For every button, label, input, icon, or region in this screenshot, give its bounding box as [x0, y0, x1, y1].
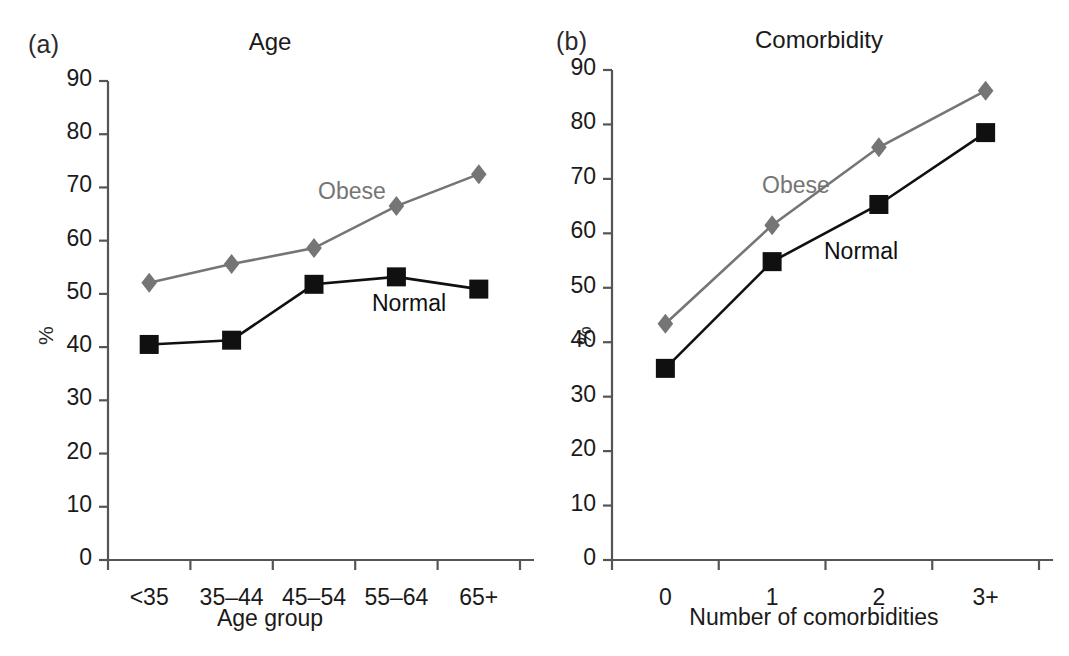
y-tick-label: 70 [534, 163, 596, 190]
y-tick-label: 70 [30, 171, 92, 198]
figure: (a) Age % Age group 0102030405060708090<… [0, 0, 1069, 656]
y-tick-label: 80 [534, 108, 596, 135]
y-tick-label: 40 [534, 326, 596, 353]
series-label-obese: Obese [762, 172, 830, 199]
data-point-marker [224, 254, 240, 274]
y-tick-label: 20 [534, 435, 596, 462]
y-tick-label: 30 [534, 381, 596, 408]
y-tick-label: 10 [534, 490, 596, 517]
y-tick-label: 50 [30, 278, 92, 305]
series-line-obese [665, 91, 985, 324]
data-point-marker [140, 335, 159, 354]
data-point-marker [869, 195, 888, 214]
y-tick-label: 30 [30, 384, 92, 411]
series-label-normal: Normal [824, 238, 898, 265]
data-point-marker [978, 81, 994, 101]
panel-b-plot [534, 0, 1068, 656]
y-tick-label: 10 [30, 491, 92, 518]
data-point-marker [976, 123, 995, 142]
series-label-obese: Obese [318, 178, 386, 205]
y-tick-label: 60 [534, 217, 596, 244]
panel-b: (b) Comorbidity % Number of comorbiditie… [534, 0, 1068, 656]
y-tick-label: 40 [30, 331, 92, 358]
y-tick-label: 90 [30, 65, 92, 92]
y-tick-label: 0 [534, 544, 596, 571]
data-point-marker [658, 314, 674, 334]
y-tick-label: 50 [534, 272, 596, 299]
data-point-marker [306, 238, 322, 258]
x-tick-label: 65+ [419, 584, 539, 611]
x-tick-label: 1 [712, 584, 832, 611]
panel-a: (a) Age % Age group 0102030405060708090<… [0, 0, 534, 656]
data-point-marker [305, 275, 324, 294]
data-point-marker [764, 215, 780, 235]
data-point-marker [656, 359, 675, 378]
data-point-marker [389, 196, 405, 216]
x-tick-label: 0 [605, 584, 725, 611]
series-label-normal: Normal [372, 290, 446, 317]
data-point-marker [469, 280, 488, 299]
y-tick-label: 90 [534, 54, 596, 81]
data-point-marker [471, 164, 487, 184]
x-tick-label: 2 [819, 584, 939, 611]
y-tick-label: 0 [30, 544, 92, 571]
data-point-marker [763, 252, 782, 271]
y-tick-label: 60 [30, 225, 92, 252]
x-tick-label: 3+ [926, 584, 1046, 611]
data-point-marker [222, 331, 241, 350]
y-tick-label: 80 [30, 118, 92, 145]
data-point-marker [141, 273, 157, 293]
series-line-obese [149, 174, 479, 283]
data-point-marker [387, 267, 406, 286]
y-tick-label: 20 [30, 438, 92, 465]
data-point-marker [871, 137, 887, 157]
